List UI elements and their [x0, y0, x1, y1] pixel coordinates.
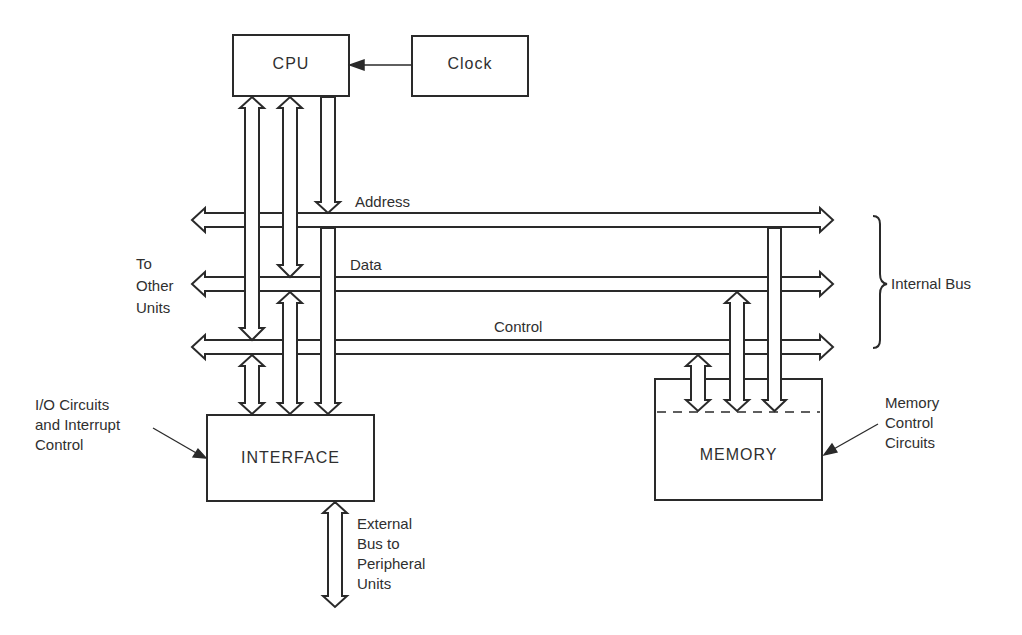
- internal-bus-label: Internal Bus: [891, 274, 971, 294]
- clock-to-cpu-arrow: [350, 60, 412, 70]
- interface-label: INTERFACE: [207, 449, 374, 467]
- memory-label: MEMORY: [655, 446, 822, 464]
- data-bus-label: Data: [350, 255, 382, 275]
- io-circuits-leader: [153, 428, 206, 458]
- cpu-address-connector: [316, 97, 340, 213]
- cpu-label: CPU: [233, 55, 349, 73]
- cpu-data-connector: [278, 97, 302, 277]
- external-bus-arrow: [323, 502, 347, 607]
- external-bus-label: External Bus to Peripheral Units: [357, 514, 425, 594]
- control-bus-label: Control: [494, 317, 542, 337]
- control-interface-connector: [240, 355, 264, 414]
- io-circuits-label: I/O Circuits and Interrupt Control: [35, 395, 120, 455]
- memory-control-label: Memory Control Circuits: [885, 393, 939, 453]
- to-other-units-label: To Other Units: [136, 253, 174, 319]
- address-interface-connector: [316, 228, 340, 414]
- address-bus-label: Address: [355, 192, 410, 212]
- memory-control-leader: [824, 424, 878, 455]
- clock-label: Clock: [412, 55, 528, 73]
- internal-bus-brace: [873, 216, 887, 348]
